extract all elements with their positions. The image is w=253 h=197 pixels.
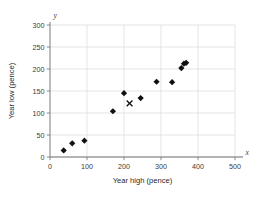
x-axis-letter: x xyxy=(245,148,250,157)
y-tick-label: 250 xyxy=(33,43,45,52)
y-tick-label: 300 xyxy=(33,21,45,30)
data-point-diamond xyxy=(110,108,116,114)
plot-canvas: 0100200300400500050100150200250300 yx Ye… xyxy=(0,0,253,197)
data-point-diamond xyxy=(153,79,159,85)
y-tick-label: 200 xyxy=(33,65,45,74)
axes-group xyxy=(50,22,243,157)
x-tick-label: 400 xyxy=(192,162,204,171)
data-point-diamond xyxy=(61,147,67,153)
data-point-cross xyxy=(127,100,133,106)
scatter-plot-figure: 0100200300400500050100150200250300 yx Ye… xyxy=(0,0,253,197)
y-axis-letter: y xyxy=(53,11,58,20)
data-point-diamond xyxy=(81,138,87,144)
y-tick-label: 0 xyxy=(41,153,45,162)
x-tick-label: 500 xyxy=(229,162,241,171)
y-tick-label: 50 xyxy=(37,131,45,140)
y-axis-title: Year low (pence) xyxy=(7,62,16,119)
y-tick-label: 100 xyxy=(33,109,45,118)
x-axis-title: Year high (pence) xyxy=(113,176,173,185)
data-point-diamond xyxy=(138,95,144,101)
data-point-diamond xyxy=(69,140,75,146)
gridlines-group xyxy=(50,25,235,157)
x-tick-label: 200 xyxy=(118,162,130,171)
y-tick-label: 150 xyxy=(33,87,45,96)
x-tick-label: 100 xyxy=(81,162,93,171)
x-tick-label: 300 xyxy=(155,162,167,171)
tick-marks-group xyxy=(47,25,235,160)
x-tick-label: 0 xyxy=(48,162,52,171)
data-markers-group xyxy=(61,60,190,154)
data-point-diamond xyxy=(169,79,175,85)
